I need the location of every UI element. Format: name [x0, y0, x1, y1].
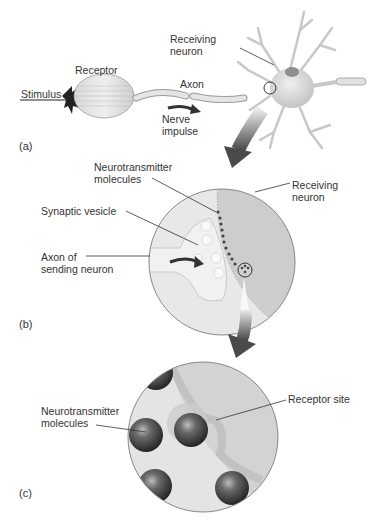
part-label-b: (b)	[19, 318, 32, 330]
nerve-impulse-arrow	[168, 106, 194, 110]
part-label-c: (c)	[19, 487, 32, 499]
label-neurotransmitter-b: Neurotransmittermolecules	[94, 161, 172, 185]
label-receiving-neuron-b: Receivingneuron	[292, 179, 338, 203]
label-neurotransmitter-c: Neurotransmittermolecules	[41, 405, 119, 429]
neurotransmitter-molecule	[139, 356, 173, 390]
label-axon: Axon	[180, 78, 204, 90]
label-stimulus: Stimulus	[21, 88, 61, 100]
part-label-a: (a)	[19, 140, 32, 152]
neurotransmitter-molecule	[138, 469, 172, 503]
panel-c	[96, 356, 320, 512]
label-receptor: Receptor	[75, 64, 118, 76]
zoom-arrow-a-to-b	[238, 110, 262, 150]
label-receptor-site: Receptor site	[288, 393, 350, 405]
neurotransmitter-molecule	[129, 418, 163, 452]
label-nerve-impulse: Nerveimpulse	[162, 113, 198, 137]
neurotransmitter-molecule	[174, 413, 208, 447]
label-synaptic-vesicle: Synaptic vesicle	[41, 205, 116, 217]
zoom-arrow-b-to-c	[242, 310, 246, 340]
nucleus	[285, 67, 299, 77]
panel-b	[86, 178, 320, 358]
label-receiving-neuron-a: Receivingneuron	[170, 33, 216, 57]
label-axon-sending: Axon ofsending neuron	[41, 251, 113, 275]
